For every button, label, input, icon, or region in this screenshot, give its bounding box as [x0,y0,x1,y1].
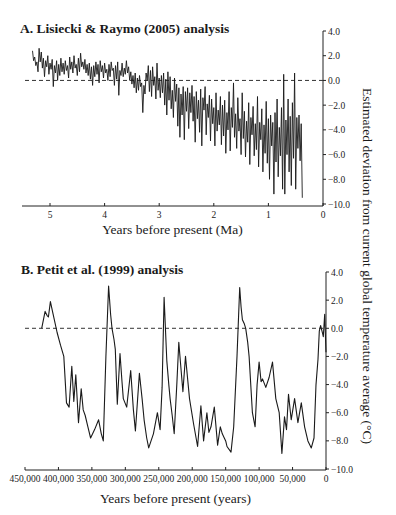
y-tick-label: 2.0 [331,296,343,306]
x-tick-label: 200,000 [177,474,208,484]
x-tick-label: 4 [102,210,107,220]
x-tick-label: 300,000 [110,474,141,484]
x-tick-label: 350,000 [76,474,107,484]
y-tick-label: −6.0 [331,408,348,418]
x-tick-label: 3 [157,210,162,220]
x-tick-label: 1 [266,210,271,220]
x-tick-label: 0 [324,474,329,484]
x-tick-label: 100,000 [244,474,275,484]
x-tick-label: 450,000 [10,474,41,484]
y-tick-label: −10.0 [328,200,350,210]
y-tick-label: −8.0 [331,436,348,446]
y-tick-label: −4.0 [328,125,345,135]
y-tick-label: −8.0 [328,175,345,185]
y-tick-label: −4.0 [331,380,348,390]
temperature-series-line [42,286,326,453]
y-tick-label: 2.0 [328,51,340,61]
x-tick-label: 5 [48,210,53,220]
x-tick-label: 400,000 [43,474,74,484]
y-tick-label: −10.0 [331,465,353,475]
charts-canvas: 5432104.02.00.0−2.0−4.0−6.0−8.0−10.0 450… [0,0,396,515]
temperature-series-line [33,48,303,198]
chart-a-lisiecki-raymo: 5432104.02.00.0−2.0−4.0−6.0−8.0−10.0 [22,27,350,221]
x-tick-label: 150,000 [210,474,241,484]
chart-b-petit: 450,000400,000350,000300,000250,000200,0… [10,268,354,485]
y-tick-label: −2.0 [328,101,345,111]
x-tick-label: 50,000 [279,474,305,484]
x-tick-label: 2 [211,210,216,220]
y-tick-label: −2.0 [331,352,348,362]
x-tick-label: 0 [321,210,326,220]
y-tick-label: 0.0 [331,324,343,334]
y-tick-label: 4.0 [328,27,340,37]
y-tick-label: 4.0 [331,268,343,278]
x-tick-label: 250,000 [143,474,174,484]
y-tick-label: −6.0 [328,150,345,160]
y-tick-label: 0.0 [328,76,340,86]
